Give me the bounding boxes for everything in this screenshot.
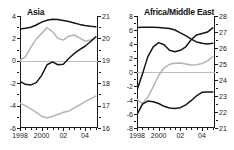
y-label-right-afme-7: 21	[219, 125, 227, 132]
series-line-afme-rising-dark	[137, 28, 213, 90]
y-label-right-afme-3: 25	[219, 61, 227, 68]
y-tick-left-minor-asia-2	[17, 72, 19, 73]
x-tick-afme-1998.5	[142, 128, 143, 130]
x-tick-asia-2005.0	[96, 128, 97, 130]
x-tick-asia-1998.0	[20, 128, 21, 131]
y-tick-left-minor-afme-3	[134, 65, 136, 66]
y-tick-right-asia-2	[98, 61, 101, 62]
x-tick-asia-1999.0	[31, 128, 32, 130]
y-label-left-afme-6: -4	[127, 97, 133, 104]
y-label-right-afme-5: 23	[219, 93, 227, 100]
y-tick-right-minor-asia-4	[99, 117, 101, 118]
y-tick-right-minor-afme-0	[216, 24, 218, 25]
y-tick-right-asia-4	[98, 106, 101, 107]
x-tick-asia-1998.5	[25, 128, 26, 130]
y-tick-right-afme-3	[215, 64, 218, 65]
y-label-left-afme-4: 0	[129, 69, 133, 76]
x-tick-afme-2000.5	[164, 128, 165, 130]
x-tick-asia-2002.0	[63, 128, 64, 131]
y-tick-right-minor-afme-3	[216, 72, 218, 73]
x-tick-afme-2003.5	[197, 128, 198, 130]
x-tick-afme-1999.0	[148, 128, 149, 130]
y-label-left-afme-7: -6	[127, 111, 133, 118]
y-tick-left-minor-afme-4	[134, 79, 136, 80]
y-tick-right-afme-6	[215, 112, 218, 113]
y-tick-right-asia-5	[98, 128, 101, 129]
y-tick-left-minor-afme-7	[134, 121, 136, 122]
x-tick-afme-2003.0	[191, 128, 192, 130]
x-tick-afme-2002.5	[186, 128, 187, 130]
y-tick-right-afme-4	[215, 80, 218, 81]
y-tick-right-minor-asia-2	[99, 72, 101, 73]
x-tick-afme-2004.0	[202, 128, 203, 131]
y-tick-left-minor-afme-5	[134, 93, 136, 94]
y-tick-right-minor-asia-0	[99, 27, 101, 28]
x-tick-afme-2004.5	[207, 128, 208, 130]
y-tick-right-minor-afme-6	[216, 120, 218, 121]
y-label-right-asia-2: 19	[102, 57, 110, 64]
y-label-left-afme-8: -8	[127, 125, 133, 132]
y-tick-right-minor-afme-2	[216, 56, 218, 57]
y-tick-left-minor-asia-3	[17, 94, 19, 95]
y-tick-right-afme-1	[215, 32, 218, 33]
y-label-left-afme-5: -2	[127, 83, 133, 90]
y-tick-right-minor-asia-1	[99, 50, 101, 51]
y-label-right-asia-3: 18	[102, 80, 110, 87]
y-tick-right-minor-afme-1	[216, 40, 218, 41]
x-label-asia-0: 1998	[12, 132, 28, 139]
y-tick-left-minor-afme-6	[134, 107, 136, 108]
x-label-afme-1: 2000	[151, 132, 167, 139]
series-line-asia-upper-light	[20, 28, 96, 60]
x-tick-asia-2001.0	[53, 128, 54, 130]
y-tick-right-asia-1	[98, 38, 101, 39]
x-tick-asia-2000.5	[47, 128, 48, 130]
x-tick-afme-2001.0	[170, 128, 171, 130]
x-tick-afme-1999.5	[153, 128, 154, 130]
chart-panel-asia: Asia 420-2-4-6212019181716199820000204	[0, 0, 117, 150]
x-label-asia-2: 02	[59, 132, 67, 139]
y-label-left-asia-3: -2	[10, 80, 16, 87]
x-tick-asia-2003.5	[80, 128, 81, 130]
y-tick-left-minor-asia-1	[17, 50, 19, 51]
y-tick-right-afme-2	[215, 48, 218, 49]
x-label-afme-0: 1998	[129, 132, 145, 139]
y-label-left-afme-0: 8	[129, 13, 133, 20]
x-tick-afme-2002.0	[180, 128, 181, 131]
y-label-right-asia-1: 20	[102, 35, 110, 42]
y-tick-right-afme-5	[215, 96, 218, 97]
x-tick-asia-2001.5	[58, 128, 59, 130]
x-label-asia-1: 2000	[34, 132, 50, 139]
x-label-afme-2: 02	[176, 132, 184, 139]
y-label-left-afme-2: 4	[129, 41, 133, 48]
x-tick-asia-2003.0	[74, 128, 75, 130]
y-label-left-asia-0: 4	[12, 13, 16, 20]
y-tick-left-minor-afme-1	[134, 37, 136, 38]
series-line-asia-mid-dark	[20, 37, 96, 85]
x-label-afme-3: 04	[198, 132, 206, 139]
y-label-right-afme-2: 26	[219, 45, 227, 52]
y-tick-left-minor-asia-0	[17, 27, 19, 28]
y-label-left-asia-4: -4	[10, 102, 16, 109]
series-line-asia-lower-light	[20, 96, 96, 118]
plot-area-asia: 420-2-4-6212019181716199820000204	[20, 16, 98, 128]
x-tick-asia-1999.5	[36, 128, 37, 130]
series-line-afme-upper-dark	[137, 27, 213, 44]
series-layer-asia	[20, 16, 98, 128]
y-label-left-afme-3: 2	[129, 55, 133, 62]
y-label-right-asia-4: 17	[102, 102, 110, 109]
y-label-left-afme-1: 6	[129, 27, 133, 34]
y-label-right-asia-0: 21	[102, 13, 110, 20]
x-tick-asia-2004.0	[85, 128, 86, 131]
figure-root: Asia 420-2-4-6212019181716199820000204 A…	[0, 0, 234, 150]
x-tick-asia-2004.5	[90, 128, 91, 130]
chart-panel-africa-middle-east: Africa/Middle East 86420-2-4-6-828272625…	[117, 0, 234, 150]
y-tick-right-minor-afme-4	[216, 88, 218, 89]
x-label-asia-3: 04	[81, 132, 89, 139]
x-tick-asia-2002.5	[69, 128, 70, 130]
y-label-right-afme-4: 24	[219, 77, 227, 84]
y-label-right-afme-1: 27	[219, 29, 227, 36]
series-line-asia-upper-dark	[20, 19, 96, 29]
y-tick-right-afme-0	[215, 16, 218, 17]
series-line-afme-mid-light	[137, 57, 213, 104]
y-tick-right-afme-7	[215, 128, 218, 129]
